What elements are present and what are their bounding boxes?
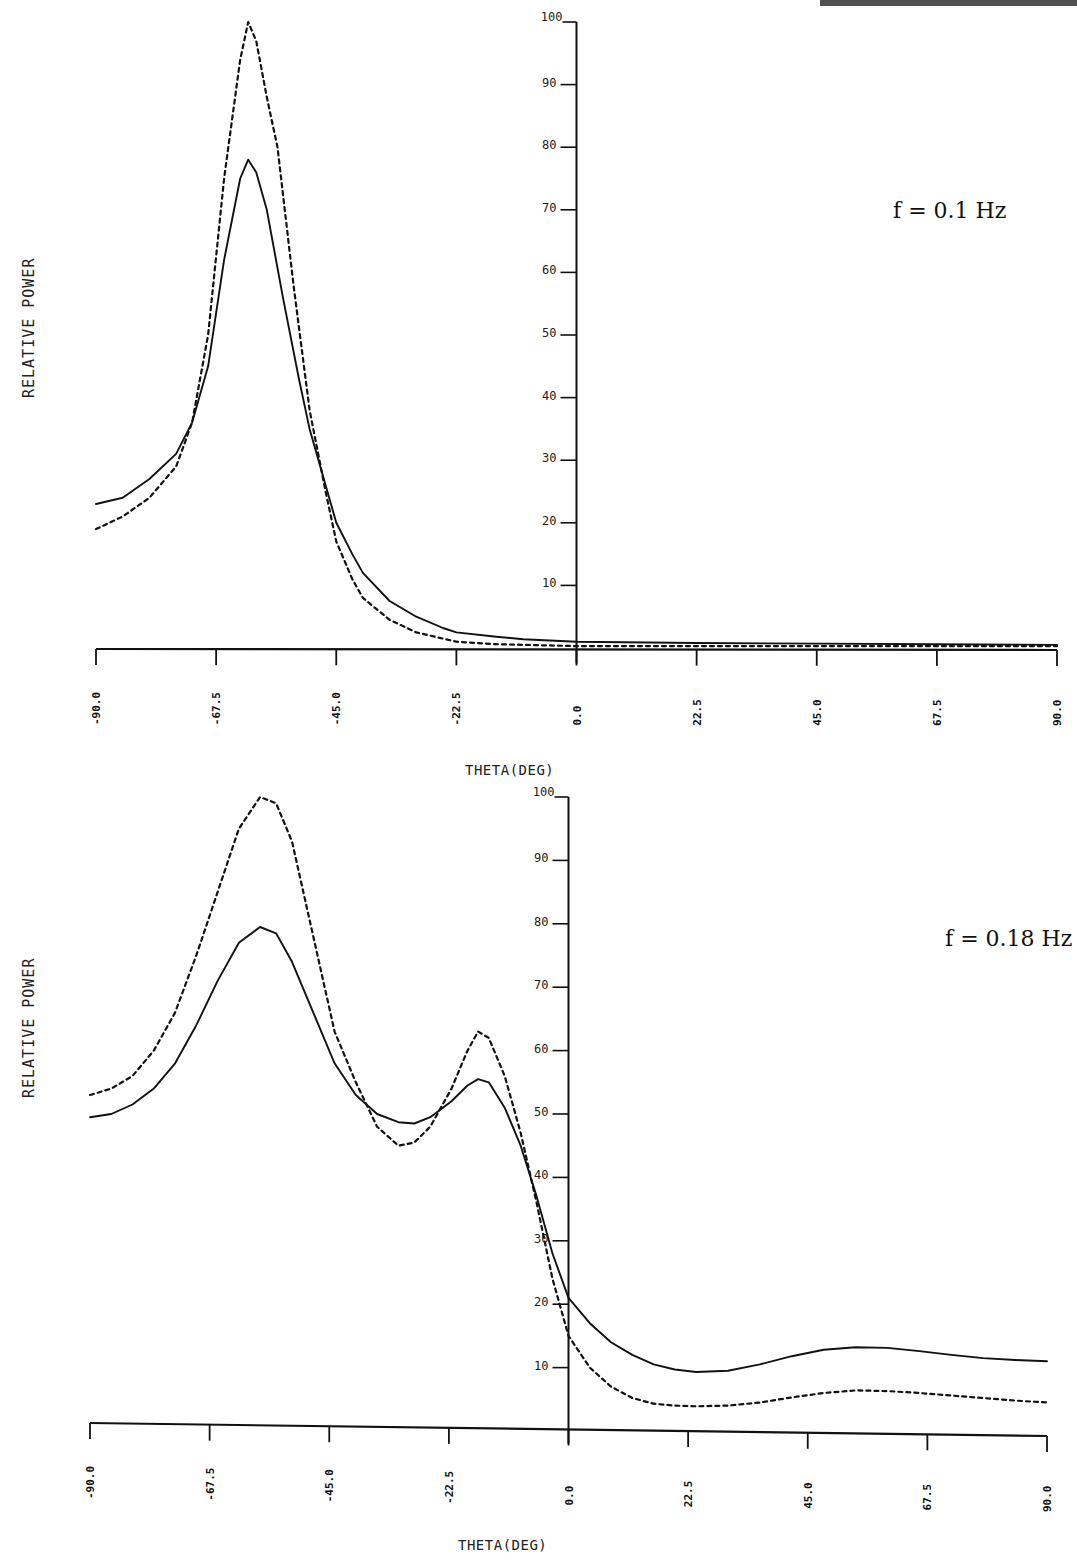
frequency-annotation: f = 0.18 Hz xyxy=(945,926,1072,951)
x-tick-label: 67.5 xyxy=(931,699,944,726)
y-tick-label: 80 xyxy=(534,915,548,929)
x-tick-label: 67.5 xyxy=(921,1484,934,1511)
x-tick-label: 45.0 xyxy=(811,699,824,726)
x-tick-label: 90.0 xyxy=(1051,700,1064,727)
x-tick-label: 90.0 xyxy=(1041,1486,1054,1513)
y-axis-label: RELATIVE POWER xyxy=(20,958,38,1098)
x-tick-label: -67.5 xyxy=(204,1468,217,1501)
x-tick-label: -22.5 xyxy=(450,692,463,725)
x-tick-label: -90.0 xyxy=(84,1466,97,1499)
x-tick-label: -90.0 xyxy=(90,692,103,725)
chart-plot-bottom: -90.0-67.5-45.0-22.50.022.545.067.590.01… xyxy=(0,780,1077,1561)
x-tick-label: 22.5 xyxy=(691,699,704,726)
y-tick-label: 50 xyxy=(534,1105,548,1119)
x-tick-label: -45.0 xyxy=(330,692,343,725)
x-tick-label: 0.0 xyxy=(571,706,584,726)
y-tick-label: 60 xyxy=(534,1042,548,1056)
y-tick-label: 80 xyxy=(542,138,556,152)
y-axis-label: RELATIVE POWER xyxy=(20,258,38,398)
y-tick-label: 40 xyxy=(534,1168,548,1182)
x-tick-label: -22.5 xyxy=(443,1471,456,1504)
x-tick-label: 45.0 xyxy=(802,1482,815,1509)
y-tick-label: 100 xyxy=(541,10,563,24)
y-tick-label: 90 xyxy=(542,76,556,90)
x-axis-label: THETA(DEG) xyxy=(465,762,554,778)
x-tick-label: -67.5 xyxy=(210,692,223,725)
y-tick-label: 70 xyxy=(534,978,548,992)
y-tick-label: 50 xyxy=(542,326,556,340)
y-tick-label: 40 xyxy=(542,389,556,403)
x-tick-label: -45.0 xyxy=(323,1469,336,1502)
chart-panel-bottom: -90.0-67.5-45.0-22.50.022.545.067.590.01… xyxy=(0,780,1077,1561)
y-tick-label: 10 xyxy=(534,1359,548,1373)
chart-panel-top: -90.0-67.5-45.0-22.50.022.545.067.590.01… xyxy=(0,0,1077,780)
y-tick-label: 20 xyxy=(534,1295,548,1309)
y-tick-label: 70 xyxy=(542,201,556,215)
x-tick-label: 22.5 xyxy=(682,1481,695,1508)
frequency-annotation: f = 0.1 Hz xyxy=(893,198,1006,223)
x-axis-label: THETA(DEG) xyxy=(458,1537,547,1553)
y-tick-label: 20 xyxy=(542,514,556,528)
y-tick-label: 100 xyxy=(533,785,555,799)
y-tick-label: 10 xyxy=(542,576,556,590)
y-tick-label: 60 xyxy=(542,263,556,277)
y-tick-label: 30 xyxy=(542,451,556,465)
chart-plot-top: -90.0-67.5-45.0-22.50.022.545.067.590.01… xyxy=(0,0,1077,780)
x-tick-label: 0.0 xyxy=(563,1486,576,1506)
y-tick-label: 90 xyxy=(534,851,548,865)
